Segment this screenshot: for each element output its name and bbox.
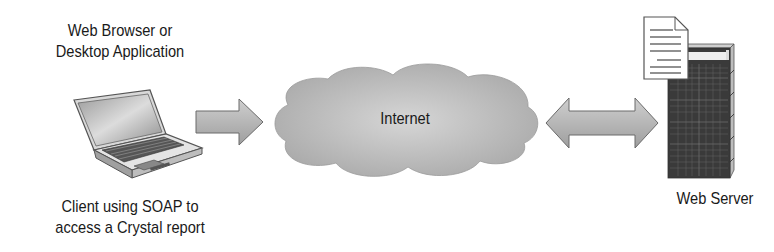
client-bottom-label: Client using SOAP to access a Crystal re… bbox=[44, 196, 216, 238]
client-top-label-line1: Web Browser or bbox=[43, 20, 198, 41]
client-top-label: Web Browser or Desktop Application bbox=[43, 20, 198, 62]
arrow-double-icon bbox=[545, 96, 660, 150]
client-bottom-label-line1: Client using SOAP to bbox=[44, 196, 216, 217]
arrow-right-icon bbox=[195, 97, 265, 147]
client-top-label-line2: Desktop Application bbox=[43, 41, 198, 62]
cloud-label: Internet bbox=[358, 108, 453, 129]
server-label: Web Server bbox=[668, 188, 763, 209]
document-icon bbox=[643, 16, 689, 80]
laptop-icon bbox=[70, 88, 205, 183]
client-bottom-label-line2: access a Crystal report bbox=[44, 217, 216, 238]
